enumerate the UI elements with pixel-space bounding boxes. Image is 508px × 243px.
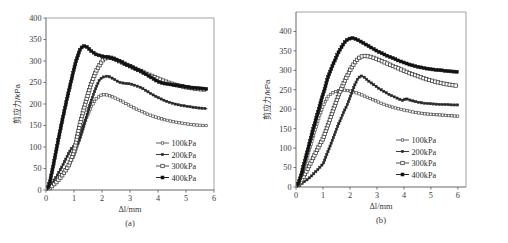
y-axis-title: 剪应力/kPa [12,83,22,124]
data-point-marker [365,78,367,80]
data-point-marker [119,99,121,101]
data-point-marker [424,113,426,115]
legend-label: 300kPa [172,162,197,171]
data-point-marker [56,142,59,145]
data-point-marker [422,67,425,70]
data-point-marker [119,81,121,83]
data-point-marker [453,104,455,106]
data-point-marker [199,124,201,126]
chart-panel-a: 0501001502002503003504000123456Δl/mm剪应力/… [0,0,254,243]
data-point-marker [59,130,62,133]
data-point-marker [421,112,423,114]
data-point-marker [321,164,323,166]
data-point-marker [316,113,319,116]
data-point-marker [332,137,334,139]
data-point-marker [312,125,315,128]
data-point-marker [205,124,207,126]
data-point-marker [324,84,327,87]
data-point-marker [427,113,429,115]
data-point-marker [114,97,116,99]
data-point-marker [440,69,443,72]
data-point-marker [122,82,124,84]
data-point-marker [402,99,404,101]
data-point-marker [405,62,408,65]
data-point-marker [331,139,333,141]
data-point-marker [95,88,97,90]
y-axis-title: 剪应力/kPa [262,79,272,120]
data-point-marker [352,89,354,91]
data-point-marker [49,177,52,180]
data-point-marker [62,115,65,118]
data-point-marker [72,68,75,71]
data-point-marker [90,99,92,101]
data-point-marker [178,122,180,124]
data-point-marker [320,111,322,113]
data-point-marker [93,91,95,93]
x-axis-ticks: 0123456 [294,187,460,200]
data-point-marker [202,87,205,90]
data-point-marker [106,94,108,96]
data-point-marker [401,150,403,152]
data-point-marker [310,175,312,177]
y-tick-label: 400 [279,27,291,36]
data-point-marker [297,183,300,186]
data-point-marker [81,131,83,133]
x-tick-label: 0 [294,191,298,200]
data-point-marker [93,100,95,102]
data-point-marker [61,166,63,168]
data-point-marker [330,142,332,144]
data-point-marker [326,153,328,155]
data-point-marker [456,104,458,106]
data-point-marker [302,165,305,168]
data-point-marker [87,110,89,112]
data-point-marker [372,98,374,100]
data-point-marker [117,98,119,100]
data-point-marker [55,148,58,151]
data-point-marker [444,114,446,116]
data-point-marker [394,107,396,109]
data-point-marker [412,100,414,102]
data-point-marker [349,95,351,97]
data-point-marker [128,83,130,85]
data-point-marker [95,53,98,56]
data-point-marker [358,93,360,95]
data-point-marker [100,94,102,96]
chart-svg-a: 0501001502002503003504000123456Δl/mm剪应力/… [0,0,254,243]
legend: 100kPa200kPa300kPa400kPa [396,136,436,180]
data-point-marker [354,84,356,86]
data-point-marker [96,85,98,87]
data-point-marker [83,125,85,127]
data-point-marker [161,142,163,144]
data-point-marker [144,89,146,91]
data-point-marker [432,103,434,105]
x-tick-label: 4 [156,194,160,203]
x-axis-title: Δl/mm [369,202,393,211]
data-point-marker [130,105,132,107]
data-point-marker [447,114,449,116]
x-axis-title: Δl/mm [118,205,142,214]
data-point-marker [308,142,311,145]
data-point-marker [108,95,110,97]
data-point-marker [152,94,154,96]
data-point-marker [187,123,189,125]
data-point-marker [60,121,63,124]
data-point-marker [98,79,100,81]
data-point-marker [322,162,324,164]
data-point-marker [161,164,164,167]
data-point-marker [168,101,170,103]
data-point-marker [324,159,326,161]
data-point-marker [348,98,350,100]
data-point-marker [63,161,65,163]
data-point-marker [97,54,100,57]
data-point-marker [420,66,423,69]
data-point-marker [125,82,127,84]
data-point-marker [304,157,307,160]
data-point-marker [400,108,402,110]
data-point-marker [420,102,422,104]
data-point-marker [174,103,176,105]
data-point-marker [181,122,183,124]
data-point-marker [423,102,425,104]
data-point-marker [196,87,199,90]
data-point-marker [351,37,354,40]
y-tick-label: 150 [29,121,41,130]
